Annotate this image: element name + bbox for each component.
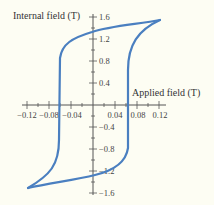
hysteresis-loop-lower xyxy=(28,20,160,188)
x-tick-label: 0.04 xyxy=(108,110,124,120)
hysteresis-chart: 1.6 1.2 0.8 0.4 −0.4 −0.8 −1.2 −1.6 −0.1… xyxy=(0,0,214,205)
y-tick-label: −0.4 xyxy=(99,122,115,132)
y-tick-label: 0.8 xyxy=(99,56,110,66)
x-axis-label: Applied field (T) xyxy=(132,87,200,99)
y-tick-label: 1.6 xyxy=(99,12,110,22)
y-tick-label: 1.2 xyxy=(99,34,110,44)
x-tick-label: 0.12 xyxy=(153,110,168,120)
y-tick-label: −1.6 xyxy=(99,188,114,198)
y-axis-label: Internal field (T) xyxy=(13,10,80,22)
y-tick-label: −0.8 xyxy=(99,144,114,154)
hysteresis-loop-upper xyxy=(28,20,160,188)
x-tick-label: −0.04 xyxy=(62,110,82,120)
x-tick-label: 0.08 xyxy=(131,110,146,120)
y-tick-label: 0.4 xyxy=(99,78,110,88)
x-tick-label: −0.12 xyxy=(17,110,37,120)
x-tick-label: −0.08 xyxy=(39,110,59,120)
